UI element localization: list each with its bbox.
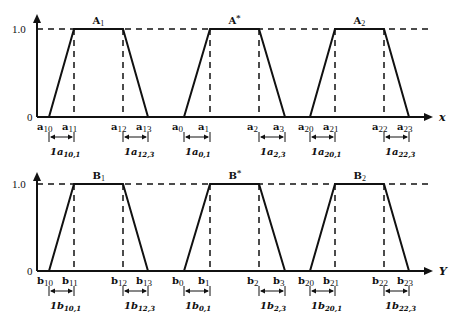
trapezoid-a2: A2a20a21a22a231a20,11a22,3 xyxy=(298,15,416,159)
arrow-left-icon xyxy=(124,135,129,140)
point-label: b10 xyxy=(37,275,54,288)
point-label: a2 xyxy=(247,121,258,134)
arrow-left-icon xyxy=(385,135,390,140)
trapezoid-a1: A1a10a11a12a131a10,11a12,3 xyxy=(37,15,155,159)
width-label: 1a10,1 xyxy=(50,146,81,159)
point-label: a3 xyxy=(273,121,284,134)
panel-top: x1.00A1a10a11a12a131a10,11a12,3A*a0a1a2a… xyxy=(12,12,446,159)
x-axis-label: x xyxy=(438,111,446,124)
fuzzy-set-name: A2 xyxy=(353,15,366,28)
panel-bottom: Y1.00B1b10b11b12b131b10,11b12,3B*b0b1b2b… xyxy=(12,167,448,313)
point-label: b20 xyxy=(298,275,315,288)
arrow-left-icon xyxy=(50,135,55,140)
width-label: 1b10,1 xyxy=(50,300,81,313)
point-label: a1 xyxy=(198,121,209,134)
width-label: 1a20,1 xyxy=(311,146,342,159)
arrow-right-icon xyxy=(68,135,73,140)
point-label: a12 xyxy=(111,121,126,134)
point-label: b22 xyxy=(372,275,388,288)
arrow-right-icon xyxy=(204,289,209,294)
point-label: b21 xyxy=(323,275,339,288)
arrow-right-icon xyxy=(403,289,408,294)
point-label: b1 xyxy=(198,275,210,288)
membership-function xyxy=(49,184,148,271)
fuzzy-set-name: B1 xyxy=(93,170,105,183)
width-label: 1a2,3 xyxy=(260,146,286,159)
membership-function xyxy=(184,184,285,271)
point-label: a10 xyxy=(37,121,53,134)
width-label: 1a0,1 xyxy=(185,146,211,159)
point-label: a21 xyxy=(323,121,338,134)
point-label: b23 xyxy=(397,275,414,288)
point-label: b11 xyxy=(62,275,78,288)
width-label: 1b22,3 xyxy=(385,300,416,313)
arrow-left-icon xyxy=(385,289,390,294)
point-label: b3 xyxy=(273,275,285,288)
membership-function xyxy=(310,29,409,117)
membership-function xyxy=(310,184,409,271)
fuzzy-set-name: A* xyxy=(228,12,242,26)
arrow-right-icon xyxy=(68,289,73,294)
arrow-right-icon xyxy=(279,135,284,140)
arrow-right-icon xyxy=(329,289,334,294)
point-label: b13 xyxy=(136,275,153,288)
point-label: a23 xyxy=(397,121,413,134)
width-label: 1b0,1 xyxy=(185,300,211,313)
point-label: a13 xyxy=(136,121,152,134)
width-label: 1b20,1 xyxy=(311,300,342,313)
arrow-left-icon xyxy=(185,135,190,140)
arrow-right-icon xyxy=(279,289,284,294)
width-label: 1a22,3 xyxy=(385,146,416,159)
y-axis-arrow-icon xyxy=(33,14,41,23)
width-label: 1a12,3 xyxy=(124,146,155,159)
point-label: a0 xyxy=(172,121,183,134)
point-label: b0 xyxy=(172,275,184,288)
arrow-right-icon xyxy=(204,135,209,140)
trapezoidal-membership-diagram: x1.00A1a10a11a12a131a10,11a12,3A*a0a1a2a… xyxy=(0,0,463,318)
x-axis-arrow-icon xyxy=(424,113,433,121)
trapezoid-b1: B1b10b11b12b131b10,11b12,3 xyxy=(37,170,155,313)
membership-function xyxy=(49,29,148,117)
y-tick-1: 1.0 xyxy=(12,178,26,190)
arrow-left-icon xyxy=(260,135,265,140)
fuzzy-set-name: B2 xyxy=(354,170,366,183)
arrow-left-icon xyxy=(260,289,265,294)
arrow-left-icon xyxy=(311,289,316,294)
width-label: 1b2,3 xyxy=(260,300,286,313)
arrow-right-icon xyxy=(142,289,147,294)
point-label: a11 xyxy=(62,121,77,134)
arrow-left-icon xyxy=(50,289,55,294)
point-label: b2 xyxy=(247,275,259,288)
width-label: 1b12,3 xyxy=(124,300,155,313)
x-axis-arrow-icon xyxy=(424,267,433,275)
arrow-right-icon xyxy=(142,135,147,140)
y-tick-0: 0 xyxy=(27,111,33,123)
fuzzy-set-name: A1 xyxy=(92,15,105,28)
y-tick-1: 1.0 xyxy=(12,23,26,35)
x-axis-label: Y xyxy=(439,265,448,278)
y-axis-arrow-icon xyxy=(33,172,41,181)
point-label: a20 xyxy=(298,121,314,134)
trapezoid-bstar: B*b0b1b2b31b0,11b2,3 xyxy=(172,167,286,313)
membership-function xyxy=(184,29,285,117)
fuzzy-set-name: B* xyxy=(229,167,242,181)
arrow-left-icon xyxy=(185,289,190,294)
point-label: a22 xyxy=(372,121,387,134)
trapezoid-astar: A*a0a1a2a31a0,11a2,3 xyxy=(172,12,286,159)
arrow-right-icon xyxy=(403,135,408,140)
trapezoid-b2: B2b20b21b22b231b20,11b22,3 xyxy=(298,170,416,313)
arrow-right-icon xyxy=(329,135,334,140)
point-label: b12 xyxy=(111,275,127,288)
y-tick-0: 0 xyxy=(27,265,33,277)
arrow-left-icon xyxy=(311,135,316,140)
arrow-left-icon xyxy=(124,289,129,294)
